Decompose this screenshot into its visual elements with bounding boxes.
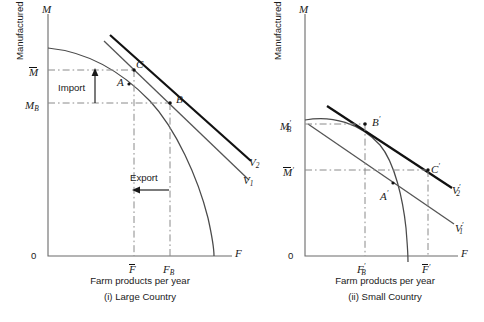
point-bprime-dot (363, 122, 367, 126)
yaxis-title-large: Manufactured goods per year (14, 0, 25, 60)
point-label-aprime: A′ (380, 186, 388, 204)
origin-label-small: 0 (288, 250, 293, 261)
line-label-v2-large: V2 (249, 152, 259, 170)
ytick-mb-large-sub: B (34, 104, 39, 113)
line-label-v1-large: V1 (243, 170, 253, 188)
ppf-curve-large (48, 48, 214, 256)
line-label-v1-large-text: V (243, 174, 250, 186)
annotation-export: Export (130, 172, 158, 183)
origin-label-large: 0 (31, 250, 36, 261)
line-label-v2prime-small: V′2 (452, 180, 464, 198)
yaxis-title-small: Manufactured goods per year (272, 0, 283, 60)
panel-caption-large: (i) Large Country (60, 291, 220, 302)
point-label-b: B (176, 93, 183, 105)
panel-small-country (305, 14, 458, 262)
point-label-bprime-text: B (372, 116, 379, 128)
axes-large (48, 14, 232, 256)
line-label-v2-large-sub: 2 (256, 161, 260, 170)
ytick-mbprime-small: M′B (280, 116, 295, 134)
ytick-mbar-large: M (29, 62, 38, 80)
ytick-mbprime-small-sub: B (287, 125, 292, 134)
point-label-cprime: C′ (431, 159, 440, 177)
ppf-diagram-svg (0, 0, 484, 322)
panel-caption-small: (ii) Small Country (305, 291, 465, 302)
ppf-curve-small (305, 119, 408, 262)
export-arrow-head (132, 187, 140, 194)
point-label-aprime-text: A (380, 190, 387, 202)
xaxis-title-large: Farm products per year (60, 275, 220, 286)
panel-large-country (48, 14, 251, 256)
axis-tip-label-f-small: F (461, 247, 468, 259)
point-label-c: C (136, 58, 143, 70)
line-label-v2prime-small-sub: 2 (456, 189, 460, 198)
price-line-v1-large (104, 41, 249, 180)
line-label-v1prime-small-sub: 1 (459, 227, 463, 236)
xaxis-title-small: Farm products per year (305, 275, 465, 286)
axes-small (305, 14, 458, 256)
point-label-a: A (117, 76, 124, 88)
ytick-mbarprime-small: M ′ (283, 162, 294, 180)
axis-tip-label-m-large: M (42, 3, 51, 15)
point-b-dot (168, 101, 172, 105)
axis-tip-label-f-large: F (235, 247, 242, 259)
xtick-fb-large-text: F (163, 263, 170, 275)
ytick-mb-large: MB (25, 95, 39, 113)
figure-root: M F 0 M MB F FB C A B V2 V1 Import Expor… (0, 0, 484, 322)
ytick-mb-large-text: M (25, 99, 34, 111)
point-cprime-dot (426, 168, 429, 171)
annotation-import: Import (58, 82, 85, 93)
axis-tip-label-m-small: M (299, 3, 308, 15)
line-label-v2-large-text: V (249, 156, 256, 168)
import-arrow-head (92, 68, 99, 76)
point-label-bprime: B′ (372, 112, 380, 130)
point-a-dot (127, 82, 130, 85)
line-label-v1prime-small: V′1 (455, 218, 467, 236)
point-aprime-dot (391, 181, 394, 184)
line-label-v1-large-sub: 1 (250, 179, 254, 188)
